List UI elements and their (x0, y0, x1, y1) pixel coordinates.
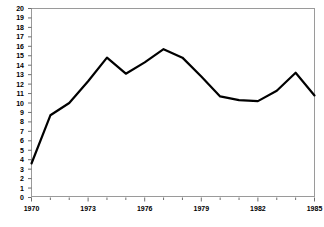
x-tick-label: 1976 (128, 205, 162, 212)
y-tick-label: 3 (2, 166, 24, 173)
y-tick-label: 1 (2, 185, 24, 192)
data-series-line (32, 49, 315, 163)
y-tick-label: 13 (2, 71, 24, 78)
y-tick-label: 16 (2, 43, 24, 50)
line-chart: 01234567891011121314151617181920 1970197… (0, 0, 324, 227)
y-tick-label: 18 (2, 24, 24, 31)
y-tick-label: 2 (2, 175, 24, 182)
y-tick-label: 12 (2, 81, 24, 88)
y-tick-label: 14 (2, 62, 24, 69)
y-tick-label: 5 (2, 147, 24, 154)
y-tick-label: 8 (2, 118, 24, 125)
x-axis-ticks (32, 198, 315, 202)
x-tick-label: 1979 (184, 205, 218, 212)
x-tick-label: 1970 (15, 205, 49, 212)
y-tick-label: 9 (2, 109, 24, 116)
y-tick-label: 0 (2, 194, 24, 201)
data-series-group (32, 49, 315, 163)
y-tick-label: 17 (2, 33, 24, 40)
x-tick-label: 1982 (241, 205, 275, 212)
x-tick-label: 1985 (298, 205, 324, 212)
x-tick-label: 1973 (71, 205, 105, 212)
y-tick-label: 7 (2, 128, 24, 135)
chart-canvas (0, 0, 324, 227)
y-tick-label: 15 (2, 52, 24, 59)
y-tick-label: 11 (2, 90, 24, 97)
y-tick-label: 10 (2, 100, 24, 107)
y-tick-label: 20 (2, 5, 24, 12)
y-tick-label: 6 (2, 137, 24, 144)
y-tick-label: 4 (2, 156, 24, 163)
y-tick-label: 19 (2, 14, 24, 21)
y-axis-ticks (28, 9, 32, 198)
